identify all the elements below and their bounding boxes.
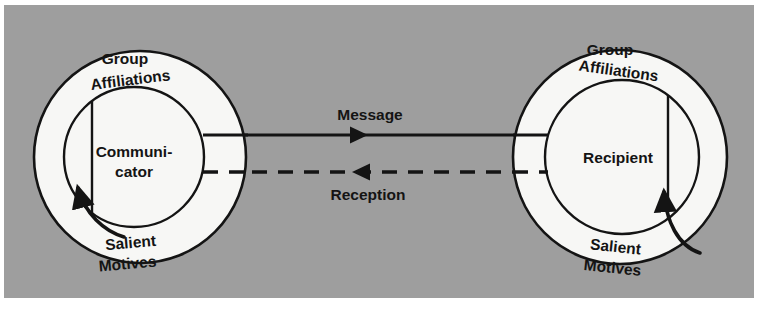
diagram-canvas: Communi- cator Group Affiliations Salien… [0,0,758,313]
reception-label: Reception [331,186,406,203]
communicator-core-label-line2: cator [115,163,153,180]
communicator-group-affiliations-line1: Group [102,50,149,67]
message-label: Message [337,106,403,123]
communicator-core-label: Communi- [96,143,173,160]
diagram-figure: Communi- cator Group Affiliations Salien… [0,0,758,313]
recipient-group-affiliations-line1: Group [587,41,634,58]
recipient-core-label: Recipient [583,149,653,166]
